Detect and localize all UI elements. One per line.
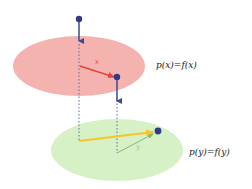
diagram-svg <box>0 0 252 189</box>
diagram-canvas: x y p(x)=f(x) p(y)=f(y) <box>0 0 252 189</box>
bottom-point <box>155 128 162 135</box>
mid-point <box>114 74 120 80</box>
x-vector-label: x <box>95 58 99 66</box>
y-vector-label: y <box>136 143 140 151</box>
top-equation-label: p(x)=f(x) <box>156 60 197 70</box>
bottom-equation-label: p(y)=f(y) <box>189 147 230 157</box>
top-point <box>76 16 82 22</box>
